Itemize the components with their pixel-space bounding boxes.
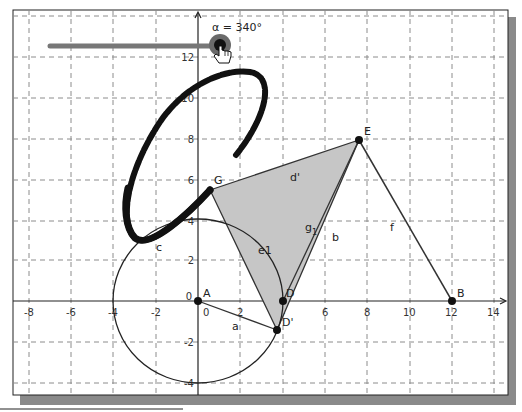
svg-text:-8: -8	[24, 307, 34, 318]
svg-text:8: 8	[364, 307, 370, 318]
svg-text:G: G	[214, 174, 223, 187]
svg-text:c: c	[156, 241, 162, 254]
frame-shadow-right	[508, 17, 516, 405]
point-b	[448, 297, 456, 305]
svg-text:g: g	[305, 221, 312, 234]
point-a	[194, 297, 202, 305]
svg-text:12: 12	[181, 52, 194, 63]
svg-text:8: 8	[188, 134, 194, 145]
svg-text:-4: -4	[184, 378, 194, 389]
svg-text:B: B	[457, 287, 465, 300]
svg-text:-6: -6	[66, 307, 76, 318]
point-d-prime	[273, 326, 281, 334]
svg-text:2: 2	[188, 255, 194, 266]
svg-text:a: a	[232, 320, 239, 333]
svg-text:d': d'	[290, 171, 300, 184]
svg-text:4: 4	[188, 216, 194, 227]
point-g	[207, 187, 214, 194]
svg-text:-2: -2	[151, 307, 161, 318]
svg-text:1: 1	[312, 228, 317, 237]
svg-text:E: E	[364, 125, 371, 138]
slider-label: α = 340°	[212, 21, 262, 34]
point-e	[355, 136, 363, 144]
svg-text:0: 0	[186, 291, 192, 302]
svg-text:e1: e1	[258, 244, 272, 257]
svg-text:D': D'	[282, 316, 294, 329]
svg-text:-2: -2	[184, 337, 194, 348]
svg-text:12: 12	[445, 307, 458, 318]
geometry-canvas[interactable]: -8 -6 -4 -2 0 2 4 6 8 10 12 14 -4 -2 0 2…	[0, 0, 522, 412]
svg-text:A: A	[203, 287, 211, 300]
svg-text:6: 6	[188, 175, 194, 186]
svg-text:b: b	[332, 231, 339, 244]
svg-text:14: 14	[487, 307, 500, 318]
svg-text:D: D	[286, 287, 294, 300]
frame-shadow-bottom	[20, 395, 516, 405]
svg-text:6: 6	[322, 307, 328, 318]
svg-text:10: 10	[403, 307, 416, 318]
svg-text:0: 0	[203, 307, 209, 318]
